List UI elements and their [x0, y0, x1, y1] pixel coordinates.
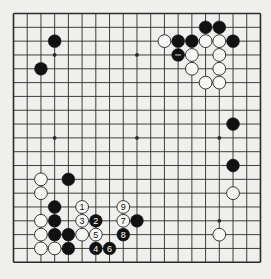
white-stone	[48, 242, 61, 255]
stone-circle	[227, 187, 240, 200]
white-stone	[213, 76, 226, 89]
stone-circle	[62, 173, 75, 186]
stone-circle	[48, 35, 61, 48]
move-number-label: 4	[93, 244, 98, 254]
stone-circle	[199, 35, 212, 48]
black-stone	[62, 173, 75, 186]
black-stone	[131, 214, 144, 227]
white-stone	[185, 49, 198, 62]
stone-circle	[185, 62, 198, 75]
move-number-label: 5	[93, 230, 98, 240]
move-number-label: 7	[121, 216, 126, 226]
white-stone	[199, 35, 212, 48]
stone-circle	[48, 228, 61, 241]
move-number-label: 3	[80, 216, 85, 226]
stone-circle	[185, 35, 198, 48]
white-stone	[213, 35, 226, 48]
go-board: 123456789	[0, 0, 271, 279]
white-stone-move-3: 3	[76, 214, 89, 227]
black-stone	[227, 35, 240, 48]
black-stone	[199, 21, 212, 34]
black-stone	[62, 242, 75, 255]
black-stone-move-2: 2	[89, 214, 102, 227]
move-number-label: 6	[107, 244, 112, 254]
stone-circle	[35, 187, 48, 200]
stone-circle	[35, 173, 48, 186]
black-stone	[48, 214, 61, 227]
white-stone	[213, 49, 226, 62]
white-stone	[76, 228, 89, 241]
black-stone	[48, 35, 61, 48]
stone-circle	[227, 118, 240, 131]
stone-circle	[76, 228, 89, 241]
stone-circle	[62, 228, 75, 241]
black-stone-move-4: 4	[89, 242, 102, 255]
move-number-label: 8	[121, 230, 126, 240]
stone-circle	[213, 62, 226, 75]
black-stone	[35, 62, 48, 75]
black-stone-move-8: 8	[117, 228, 130, 241]
star-point	[135, 136, 139, 140]
stone-circle	[131, 214, 144, 227]
white-stone-move-7: 7	[117, 214, 130, 227]
stone-circle	[213, 49, 226, 62]
stone-circle	[227, 159, 240, 172]
stone-circle	[227, 35, 240, 48]
star-point	[53, 53, 57, 57]
black-stone	[172, 49, 185, 62]
stone-circle	[35, 228, 48, 241]
black-stone	[48, 201, 61, 214]
white-stone	[185, 62, 198, 75]
white-stone	[158, 35, 171, 48]
stone-circle	[35, 242, 48, 255]
black-stone	[227, 118, 240, 131]
move-number-label: 1	[80, 202, 85, 212]
white-stone	[227, 187, 240, 200]
white-stone	[35, 173, 48, 186]
stone-circle	[199, 21, 212, 34]
white-stone	[35, 187, 48, 200]
white-stone	[199, 76, 212, 89]
black-stone	[213, 21, 226, 34]
white-stone-move-9: 9	[117, 201, 130, 214]
go-board-diagram: 123456789	[0, 0, 271, 279]
black-stone	[172, 35, 185, 48]
stone-circle	[213, 21, 226, 34]
white-stone	[35, 242, 48, 255]
stone-circle	[199, 76, 212, 89]
stone-circle	[62, 242, 75, 255]
star-point	[135, 53, 139, 57]
black-stone	[185, 35, 198, 48]
stone-circle	[172, 35, 185, 48]
star-point	[217, 219, 221, 223]
white-stone	[213, 62, 226, 75]
stone-circle	[35, 62, 48, 75]
black-stone	[227, 159, 240, 172]
white-stone-move-5: 5	[89, 228, 102, 241]
star-point	[53, 136, 57, 140]
move-number-label: 2	[93, 216, 98, 226]
white-stone-move-1: 1	[76, 201, 89, 214]
white-stone	[35, 228, 48, 241]
move-number-label: 9	[121, 202, 126, 212]
white-stone	[35, 214, 48, 227]
black-stone	[48, 228, 61, 241]
star-point	[217, 136, 221, 140]
stone-circle	[185, 49, 198, 62]
stone-circle	[35, 214, 48, 227]
white-stone	[213, 228, 226, 241]
stone-circle	[48, 201, 61, 214]
stone-circle	[48, 214, 61, 227]
black-stone-move-6: 6	[103, 242, 116, 255]
stone-circle	[213, 35, 226, 48]
stone-circle	[213, 228, 226, 241]
black-stone	[62, 228, 75, 241]
stone-circle	[213, 76, 226, 89]
stone-circle	[158, 35, 171, 48]
stone-circle	[48, 242, 61, 255]
